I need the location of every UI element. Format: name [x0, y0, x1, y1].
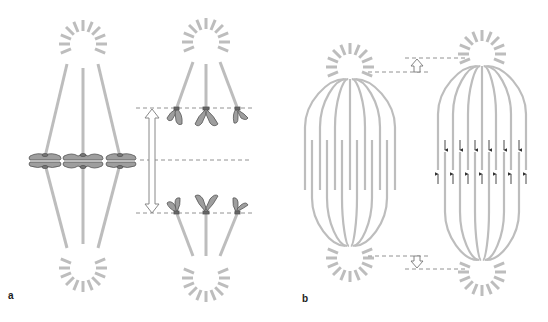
microtubule: [352, 79, 365, 190]
chromosome: [29, 154, 61, 169]
aster-ray: [473, 32, 477, 42]
chromosome: [106, 154, 136, 169]
aster-ray: [184, 47, 194, 51]
aster-ray: [197, 20, 201, 30]
aster-ray: [95, 49, 105, 53]
chromatid: [195, 107, 218, 126]
aster-ray: [95, 259, 105, 263]
aster-ray: [95, 273, 105, 277]
aster-ray: [61, 259, 71, 263]
aster-b-right-top: [458, 30, 506, 63]
pole-separation-arrow-down: [411, 256, 423, 268]
aster-ray: [218, 33, 228, 37]
aster-ray: [359, 50, 367, 58]
aster-ray: [189, 287, 197, 295]
pole-separation-arrow-up: [411, 59, 423, 72]
aster-b-right-bottom: [458, 263, 506, 296]
aster-ray: [460, 277, 470, 281]
aster-ray: [494, 277, 504, 281]
kinetochore-microtubules-a-right: [177, 62, 237, 256]
aster-ray: [362, 72, 372, 76]
aster-ray: [184, 269, 194, 273]
microtubule: [351, 140, 357, 246]
aster-ray: [88, 22, 92, 32]
mitosis-diagram: [0, 0, 548, 322]
aster-ray: [355, 45, 359, 55]
aster-ray: [74, 22, 78, 32]
microtubule: [312, 140, 345, 246]
aster-ray: [61, 273, 71, 277]
aster-ray: [359, 267, 367, 275]
aster-ray: [491, 281, 499, 289]
aster-ray: [197, 290, 201, 300]
aster-ray: [460, 263, 470, 267]
aster-ray: [465, 281, 473, 289]
aster-ray: [88, 280, 92, 290]
aster-ray: [61, 49, 71, 53]
aster-ray: [355, 270, 359, 280]
aster-a-left-bottom: [59, 259, 107, 292]
aster-ray: [465, 37, 473, 45]
chromatids-top: [167, 107, 248, 126]
double-arrow-chromatid-separation: [145, 109, 159, 213]
panel-b: [305, 30, 526, 296]
microtubule: [483, 152, 489, 260]
aster-a-right-top: [182, 18, 230, 51]
chromatid: [233, 107, 248, 123]
aster-ray: [494, 59, 504, 63]
aster-ray: [487, 284, 491, 294]
aster-ray: [215, 287, 223, 295]
aster-b-left-top: [326, 43, 374, 76]
polar-microtubules-b-left: [305, 79, 395, 246]
aster-ray: [189, 25, 197, 33]
aster-ray: [218, 47, 228, 51]
aster-ray: [74, 280, 78, 290]
aster-a-left-top: [59, 20, 107, 53]
aster-ray: [494, 263, 504, 267]
microtubule: [354, 140, 387, 246]
metaphase-chromosomes: [29, 154, 136, 169]
aster-ray: [66, 277, 74, 285]
panel-label-a: a: [8, 290, 14, 301]
sliding-arrows-up: [438, 174, 526, 184]
aster-ray: [333, 267, 341, 275]
aster-ray: [362, 249, 372, 253]
aster-ray: [460, 45, 470, 49]
aster-ray: [92, 27, 100, 35]
aster-ray: [362, 263, 372, 267]
aster-ray: [341, 270, 345, 280]
aster-ray: [215, 25, 223, 33]
aster-ray: [218, 283, 228, 287]
aster-ray: [184, 33, 194, 37]
aster-ray: [184, 283, 194, 287]
chromosome: [63, 154, 103, 169]
aster-ray: [328, 249, 338, 253]
microtubule: [486, 152, 519, 260]
aster-ray: [491, 37, 499, 45]
aster-ray: [460, 59, 470, 63]
chromatid: [195, 195, 218, 214]
aster-ray: [473, 284, 477, 294]
aster-ray: [487, 32, 491, 42]
aster-ray: [66, 27, 74, 35]
aster-b-left-bottom: [326, 249, 374, 282]
aster-ray: [211, 290, 215, 300]
aster-ray: [61, 35, 71, 39]
aster-ray: [92, 277, 100, 285]
panel-label-b: b: [302, 293, 308, 304]
aster-ray: [362, 58, 372, 62]
aster-ray: [328, 263, 338, 267]
polar-microtubules-b-right: [438, 66, 526, 260]
aster-ray: [328, 58, 338, 62]
aster-ray: [328, 72, 338, 76]
microtubule: [475, 152, 481, 260]
aster-ray: [333, 50, 341, 58]
aster-a-right-bottom: [182, 269, 230, 302]
microtubule: [445, 152, 478, 260]
panel-a: [29, 18, 252, 302]
aster-ray: [95, 35, 105, 39]
microtubule: [342, 140, 349, 246]
chromatids-bottom: [167, 195, 248, 214]
aster-ray: [211, 20, 215, 30]
chromatid: [167, 107, 182, 125]
